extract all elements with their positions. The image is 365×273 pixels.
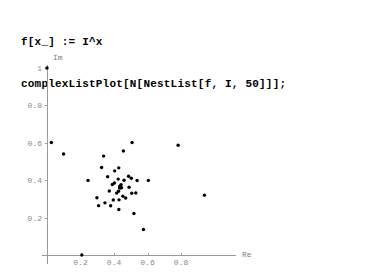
data-point bbox=[100, 166, 103, 169]
data-point bbox=[130, 141, 133, 144]
tick-labels-group: 0.20.40.60.80.20.40.60.81 bbox=[28, 64, 189, 267]
data-point bbox=[142, 228, 145, 231]
x-axis-name-re: Re bbox=[242, 250, 252, 259]
data-point bbox=[147, 179, 150, 182]
data-points-group bbox=[45, 66, 206, 256]
data-point bbox=[122, 179, 125, 182]
data-point bbox=[116, 177, 119, 180]
data-point bbox=[124, 196, 127, 199]
data-point bbox=[95, 196, 98, 199]
axes-group bbox=[42, 65, 237, 264]
data-point bbox=[109, 204, 112, 207]
data-point bbox=[119, 186, 122, 189]
data-point bbox=[127, 186, 130, 189]
code-line-1: f[x_] := I^x bbox=[21, 35, 286, 49]
complex-list-plot: 0.20.40.60.80.20.40.60.81 ReIm bbox=[0, 50, 365, 273]
y-tick-label-0.4: 0.4 bbox=[28, 176, 43, 185]
data-point bbox=[108, 189, 111, 192]
plot-svg: 0.20.40.60.80.20.40.60.81 ReIm bbox=[0, 50, 365, 273]
data-point bbox=[86, 179, 89, 182]
y-tick-label-1: 1 bbox=[37, 64, 42, 73]
data-point bbox=[102, 154, 105, 157]
data-point bbox=[132, 212, 135, 215]
data-point bbox=[122, 149, 125, 152]
y-axis-name-im: Im bbox=[53, 53, 63, 62]
data-point bbox=[45, 66, 48, 69]
data-point bbox=[62, 152, 65, 155]
data-point bbox=[117, 198, 120, 201]
data-point bbox=[203, 193, 206, 196]
data-point bbox=[50, 141, 53, 144]
x-tick-label-0.4: 0.4 bbox=[107, 258, 122, 267]
data-point bbox=[135, 179, 138, 182]
y-tick-label-0.2: 0.2 bbox=[28, 214, 43, 223]
data-point bbox=[134, 191, 137, 194]
data-point bbox=[127, 175, 130, 178]
y-tick-label-0.8: 0.8 bbox=[28, 101, 43, 110]
data-point bbox=[113, 169, 116, 172]
data-point bbox=[117, 166, 120, 169]
data-point bbox=[106, 175, 109, 178]
data-point bbox=[115, 191, 118, 194]
data-point bbox=[111, 183, 114, 186]
data-point bbox=[80, 253, 83, 256]
data-point bbox=[117, 208, 120, 211]
axis-names-group: ReIm bbox=[53, 53, 252, 259]
data-point bbox=[97, 204, 100, 207]
ticks-group bbox=[45, 69, 182, 256]
data-point bbox=[130, 192, 133, 195]
data-point bbox=[103, 201, 106, 204]
data-point bbox=[121, 195, 124, 198]
data-point bbox=[130, 176, 133, 179]
x-tick-label-0.6: 0.6 bbox=[140, 258, 155, 267]
x-tick-label-0.2: 0.2 bbox=[73, 258, 88, 267]
y-tick-label-0.6: 0.6 bbox=[28, 139, 43, 148]
x-tick-label-0.8: 0.8 bbox=[174, 258, 189, 267]
data-point bbox=[176, 144, 179, 147]
data-point bbox=[112, 198, 115, 201]
